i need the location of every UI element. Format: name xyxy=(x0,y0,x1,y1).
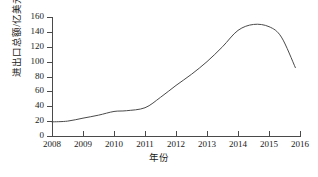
series-line-import-export xyxy=(0,0,318,177)
series-path xyxy=(52,24,295,122)
line-chart: 进出口总额/亿美元 020406080100120140160 20082009… xyxy=(0,0,318,177)
x-axis-title: 年份 xyxy=(0,153,318,164)
